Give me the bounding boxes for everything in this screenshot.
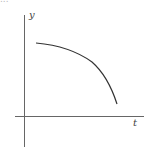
decreasing-curve: [36, 43, 117, 104]
x-axis-label: t: [133, 117, 137, 128]
y-axis-label: y: [29, 9, 35, 20]
graph-canvas: [0, 0, 148, 153]
